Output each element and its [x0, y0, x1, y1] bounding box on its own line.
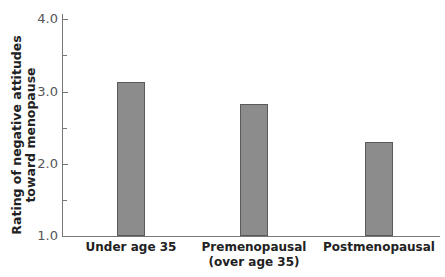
bar-premenopausal — [240, 104, 268, 236]
y-tick-label: 2.0 — [18, 157, 58, 171]
y-tick-2-5 — [62, 128, 67, 129]
x-label-postmenopausal: Postmenopausal — [309, 240, 445, 255]
y-tick-4 — [62, 19, 68, 20]
y-tick-label: 1.0 — [18, 229, 58, 243]
bar-under-age-35 — [117, 82, 145, 236]
x-label-premenopausal: Premenopausal (over age 35) — [184, 240, 324, 270]
y-tick-label: 4.0 — [18, 12, 58, 26]
y-axis-line — [62, 14, 63, 237]
y-tick-label: 3.0 — [18, 85, 58, 99]
y-tick-3 — [62, 92, 68, 93]
y-axis-title: Rating of negative attitudes toward meno… — [4, 40, 44, 230]
x-label-under-age-35: Under age 35 — [61, 240, 201, 255]
y-tick-1-5 — [62, 200, 67, 201]
x-axis-line — [62, 236, 440, 237]
y-axis-title-line-1: Rating of negative attitudes — [10, 35, 24, 234]
bar-postmenopausal — [365, 142, 393, 236]
y-tick-3-5 — [62, 55, 67, 56]
y-axis-title-line-2: toward menopause — [24, 35, 38, 234]
y-tick-2 — [62, 164, 68, 165]
bar-chart: Rating of negative attitudes toward meno… — [0, 0, 445, 277]
